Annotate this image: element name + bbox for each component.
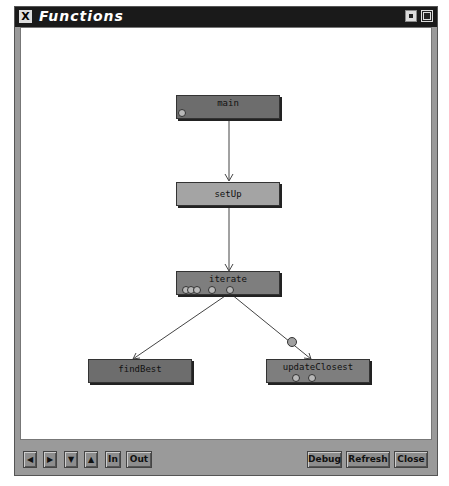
edge-port-icon [288,338,297,347]
arrow-right-icon: ▶ [44,452,56,467]
debug-button[interactable]: Debug [307,451,342,468]
zoom-in-button[interactable]: In [105,451,121,468]
port-icon[interactable] [292,374,300,382]
node-findbest[interactable]: findBest [88,359,192,383]
arrow-down-icon: ▼ [65,452,77,467]
pan-left-button[interactable]: ◀ [23,451,37,468]
bottom-toolbar: ◀ ▶ ▼ ▲ In Out Debug Refresh Close [20,447,432,471]
node-iterate[interactable]: iterate [176,271,280,295]
call-graph-canvas[interactable]: main setUp iterate findBest updateCloses… [20,27,432,440]
graph-edges [21,28,433,441]
edge-iterate-updateclosest [231,294,311,359]
x-window-icon[interactable]: X [19,10,32,23]
arrow-left-icon: ◀ [24,452,36,467]
node-setup[interactable]: setUp [176,182,280,206]
port-icon[interactable] [308,374,316,382]
port-icon[interactable] [178,109,186,117]
node-main[interactable]: main [176,95,280,119]
refresh-button[interactable]: Refresh [346,451,390,468]
maximize-button[interactable] [421,10,433,22]
port-icon[interactable] [193,286,201,294]
close-button[interactable]: Close [394,451,428,468]
zoom-out-button[interactable]: Out [126,451,152,468]
pan-down-button[interactable]: ▼ [64,451,78,468]
port-icon[interactable] [226,286,234,294]
window-title: Functions [39,8,124,24]
port-icon[interactable] [208,286,216,294]
functions-window: X Functions main setUp [14,6,438,476]
pan-right-button[interactable]: ▶ [43,451,57,468]
window-menu-button[interactable] [405,10,417,22]
arrow-up-icon: ▲ [85,452,97,467]
node-updateclosest[interactable]: updateClosest [266,359,370,383]
edge-iterate-findbest [133,294,228,359]
title-bar[interactable]: X Functions [15,7,437,27]
pan-up-button[interactable]: ▲ [84,451,98,468]
